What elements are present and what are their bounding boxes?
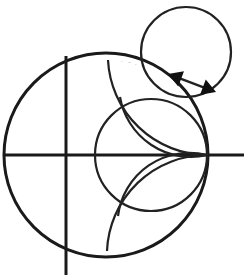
smith-chart-figure — [0, 0, 244, 275]
magnifier-circle — [141, 7, 231, 97]
smith-chart-canvas — [0, 0, 244, 275]
constant-reactance-arc-lower-half — [107, 155, 207, 251]
